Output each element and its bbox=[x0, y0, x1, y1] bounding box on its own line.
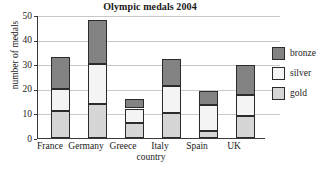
bar-stack-uk[interactable] bbox=[236, 65, 255, 138]
y-axis-title: number of medals bbox=[10, 1, 20, 109]
bar-segment-bronze[interactable] bbox=[236, 65, 255, 95]
bar-segment-gold[interactable] bbox=[162, 113, 181, 138]
bar-segment-silver[interactable] bbox=[88, 64, 107, 103]
legend-swatch-silver bbox=[272, 67, 285, 80]
bar-segment-silver[interactable] bbox=[51, 89, 70, 111]
y-tick-label-0: 0 bbox=[8, 135, 32, 145]
y-tick-label-10: 10 bbox=[8, 110, 32, 120]
bar-stack-italy[interactable] bbox=[162, 59, 181, 138]
bar-stack-greece[interactable] bbox=[125, 99, 144, 138]
bar-segment-silver[interactable] bbox=[162, 86, 181, 113]
bar-segment-gold[interactable] bbox=[51, 111, 70, 138]
x-tick-label-spain: Spain bbox=[177, 141, 217, 151]
bar-segment-bronze[interactable] bbox=[125, 99, 144, 109]
legend-label-bronze: bronze bbox=[290, 48, 316, 59]
bar-segment-gold[interactable] bbox=[236, 116, 255, 138]
x-tick-label-italy: Italy bbox=[140, 141, 180, 151]
bar-stack-france[interactable] bbox=[51, 57, 70, 138]
x-tick-label-germany: Germany bbox=[66, 141, 106, 151]
y-tick-mark-0 bbox=[34, 139, 37, 140]
x-axis-title: country bbox=[37, 152, 265, 162]
x-tick-label-france: France bbox=[30, 141, 70, 151]
bar-segment-bronze[interactable] bbox=[162, 59, 181, 86]
bar-segment-gold[interactable] bbox=[88, 104, 107, 138]
stacked-bar-chart: Olympic medals 2004 50 40 30 20 10 0 num… bbox=[0, 0, 331, 172]
bar-segment-silver[interactable] bbox=[199, 105, 218, 131]
bar-segment-bronze[interactable] bbox=[199, 91, 218, 105]
bar-segment-silver[interactable] bbox=[125, 109, 144, 124]
bar-segment-silver[interactable] bbox=[236, 95, 255, 116]
bar-segment-bronze[interactable] bbox=[88, 20, 107, 64]
legend-label-silver: silver bbox=[290, 68, 311, 79]
bar-segment-gold[interactable] bbox=[199, 131, 218, 138]
legend-swatch-bronze bbox=[272, 47, 285, 60]
x-tick-label-greece: Greece bbox=[103, 141, 143, 151]
chart-title: Olympic medals 2004 bbox=[0, 1, 300, 12]
x-tick-label-uk: UK bbox=[214, 141, 254, 151]
bar-segment-gold[interactable] bbox=[125, 123, 144, 138]
legend-label-gold: gold bbox=[290, 88, 307, 99]
plot-area bbox=[37, 16, 265, 139]
bar-stack-germany[interactable] bbox=[88, 20, 107, 138]
bar-stack-spain[interactable] bbox=[199, 91, 218, 138]
bar-segment-bronze[interactable] bbox=[51, 57, 70, 89]
legend-swatch-gold bbox=[272, 87, 285, 100]
